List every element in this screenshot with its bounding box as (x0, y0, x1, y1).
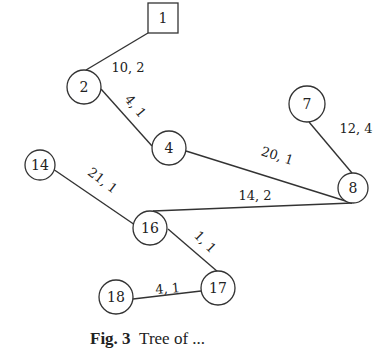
figure-caption: Fig. 3 Tree of ... (90, 329, 350, 349)
node-label: 18 (107, 289, 125, 305)
node-label: 14 (31, 157, 49, 173)
edges: 10, 24, 120, 112, 414, 221, 11, 14, 1 (53, 33, 373, 299)
node-label: 1 (159, 10, 168, 26)
node-4: 4 (152, 131, 186, 165)
caption-prefix: Fig. 3 (90, 329, 131, 348)
edge-17-18: 4, 1 (133, 280, 201, 299)
node-14: 14 (25, 150, 55, 180)
node-16: 16 (133, 211, 167, 245)
node-18: 18 (99, 280, 133, 314)
edge-label: 10, 2 (111, 60, 144, 75)
edge-label: 20, 1 (259, 143, 295, 167)
node-label: 2 (80, 79, 89, 95)
node-8: 8 (338, 173, 368, 203)
edge-line (153, 203, 352, 211)
edge-label: 14, 2 (238, 188, 271, 203)
edge-2-4: 4, 1 (101, 89, 152, 146)
node-17: 17 (201, 271, 235, 305)
edge-8-16: 14, 2 (153, 188, 352, 211)
nodes: 1247814161718 (25, 3, 368, 314)
node-1: 1 (148, 3, 178, 33)
node-label: 17 (209, 280, 227, 296)
edge-14-16: 21, 1 (53, 164, 135, 225)
node-label: 7 (303, 96, 312, 112)
node-label: 16 (141, 220, 159, 236)
edge-label: 12, 4 (339, 121, 372, 136)
edge-16-17: 1, 1 (168, 228, 219, 272)
caption-text: Tree of ... (139, 329, 205, 348)
edge-1-2: 10, 2 (86, 33, 148, 75)
node-label: 4 (165, 140, 174, 156)
edge-7-8: 12, 4 (309, 121, 373, 173)
node-7: 7 (289, 86, 325, 122)
node-label: 8 (349, 180, 358, 196)
edge-label: 21, 1 (85, 164, 120, 196)
node-2: 2 (67, 70, 101, 104)
edge-label: 4, 1 (155, 280, 181, 297)
